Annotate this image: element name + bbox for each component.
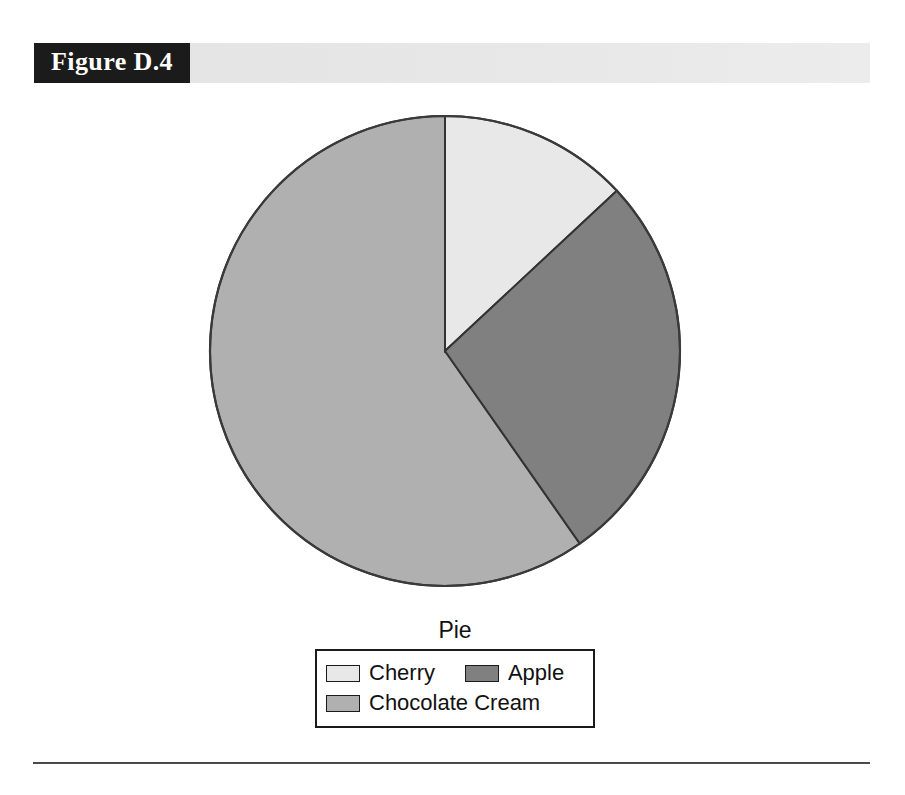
figure-header: Figure D.4 [34, 43, 870, 83]
pie-chart: Pie Cherry Apple Chocolate Cream [0, 95, 905, 745]
figure-label: Figure D.4 [51, 49, 173, 77]
legend: Pie Cherry Apple Chocolate Cream [315, 618, 595, 728]
pie-chart-graphic [205, 109, 689, 599]
legend-label-chocolate-cream: Chocolate Cream [369, 692, 540, 714]
legend-item-apple[interactable]: Apple [465, 662, 584, 684]
legend-title: Pie [315, 618, 595, 642]
figure-page: Figure D.4 Pie Cherry [0, 0, 905, 795]
legend-row: Cherry Apple [326, 658, 584, 688]
legend-swatch-apple-icon [465, 665, 499, 682]
figure-label-block: Figure D.4 [34, 43, 190, 83]
legend-swatch-chocolate-cream-icon [326, 695, 360, 712]
legend-label-cherry: Cherry [369, 662, 435, 684]
legend-row: Chocolate Cream [326, 688, 584, 718]
legend-label-apple: Apple [508, 662, 564, 684]
legend-item-cherry[interactable]: Cherry [326, 662, 465, 684]
bottom-divider [33, 762, 870, 764]
legend-item-chocolate-cream[interactable]: Chocolate Cream [326, 692, 540, 714]
legend-swatch-cherry-icon [326, 665, 360, 682]
legend-box: Cherry Apple Chocolate Cream [315, 649, 595, 728]
